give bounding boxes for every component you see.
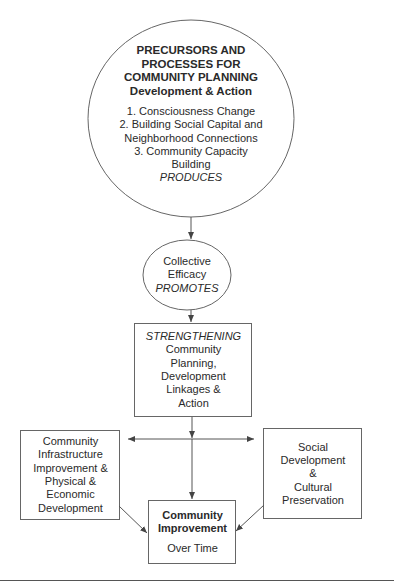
infrastructure-line: Development <box>38 502 103 515</box>
social-line: Social <box>298 441 328 454</box>
precursors-verb: PRODUCES <box>160 171 222 184</box>
strengthening-line: Development <box>161 370 226 383</box>
strengthening-verb: STRENGTHENING <box>146 330 241 343</box>
strengthening-node: STRENGTHENING Community Planning, Develo… <box>135 326 252 414</box>
arrow-infrastructure-to-improvement <box>119 506 147 533</box>
strengthening-line: Linkages & <box>166 383 220 396</box>
precursors-title-line: COMMUNITY PLANNING <box>124 71 258 85</box>
precursors-item: 3. Community Capacity <box>134 145 248 158</box>
precursors-node: PRECURSORS AND PROCESSES FOR COMMUNITY P… <box>95 44 287 185</box>
social-line: & <box>309 467 316 480</box>
improvement-subtitle: Over Time <box>167 542 218 555</box>
efficacy-verb: PROMOTES <box>156 282 219 295</box>
social-node: Social Development & Cultural Preservati… <box>264 430 362 518</box>
social-line: Preservation <box>282 494 344 507</box>
strengthening-line: Community <box>166 343 222 356</box>
precursors-title-line: PRECURSORS AND <box>137 44 246 58</box>
precursors-item: 1. Consciousness Change <box>127 105 255 118</box>
infrastructure-line: Community <box>43 435 99 448</box>
precursors-item: 2. Building Social Capital and <box>119 118 262 131</box>
strengthening-line: Action <box>178 397 209 410</box>
infrastructure-line: Infrastructure <box>38 448 103 461</box>
infrastructure-line: Economic <box>46 488 94 501</box>
improvement-node: Community Improvement Over Time <box>149 502 236 562</box>
strengthening-line: Planning, <box>171 357 217 370</box>
arrow-social-to-improvement <box>236 505 264 531</box>
infrastructure-line: Physical & <box>45 475 96 488</box>
precursors-item: Neighborhood Connections <box>124 132 257 145</box>
infrastructure-line: Improvement & <box>33 462 108 475</box>
social-line: Development <box>281 454 346 467</box>
improvement-title-line: Community <box>162 509 223 522</box>
precursors-title-line: Development & Action <box>130 85 252 99</box>
infrastructure-node: Community Infrastructure Improvement & P… <box>21 432 120 518</box>
social-line: Cultural <box>294 481 332 494</box>
efficacy-line: Efficacy <box>168 268 206 281</box>
efficacy-node: Collective Efficacy PROMOTES <box>143 248 231 302</box>
precursors-title-line: PROCESSES FOR <box>141 58 240 72</box>
improvement-title-line: Improvement <box>158 522 227 535</box>
efficacy-line: Collective <box>163 255 211 268</box>
precursors-item: Building <box>171 158 210 171</box>
